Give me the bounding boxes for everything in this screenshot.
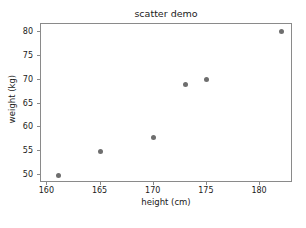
scatter-point (98, 149, 103, 154)
scatter-point (56, 173, 61, 178)
y-axis-tick (37, 31, 40, 32)
y-axis-tick-label: 65 (0, 98, 33, 107)
y-axis-tick (37, 126, 40, 127)
x-axis-label: height (cm) (40, 197, 292, 207)
y-axis-tick (37, 79, 40, 80)
x-axis-tick-label: 175 (198, 186, 213, 195)
plot-area (40, 23, 292, 182)
x-axis-tick-label: 170 (145, 186, 160, 195)
x-axis-tick-label: 165 (92, 186, 107, 195)
x-axis-tick-label: 160 (39, 186, 54, 195)
y-axis-tick-label: 70 (0, 74, 33, 83)
x-axis-tick (100, 182, 101, 185)
y-axis-tick (37, 174, 40, 175)
x-axis-tick (46, 182, 47, 185)
x-axis-tick-label: 180 (251, 186, 266, 195)
scatter-point (204, 77, 209, 82)
matplotlib-figure: scatter demo height (cm) weight (kg) 160… (0, 0, 306, 228)
scatter-point (279, 29, 284, 34)
y-axis-tick-label: 75 (0, 50, 33, 59)
y-axis-tick-label: 55 (0, 146, 33, 155)
y-axis-tick-label: 80 (0, 26, 33, 35)
x-axis-tick (259, 182, 260, 185)
scatter-point (183, 82, 188, 87)
y-axis-tick (37, 103, 40, 104)
chart-title: scatter demo (40, 8, 292, 19)
scatter-point (151, 135, 156, 140)
scatter-points-layer (41, 24, 291, 181)
x-axis-tick (206, 182, 207, 185)
y-axis-tick-label: 50 (0, 170, 33, 179)
y-axis-tick (37, 55, 40, 56)
x-axis-tick (153, 182, 154, 185)
y-axis-tick-label: 60 (0, 122, 33, 131)
y-axis-tick (37, 150, 40, 151)
